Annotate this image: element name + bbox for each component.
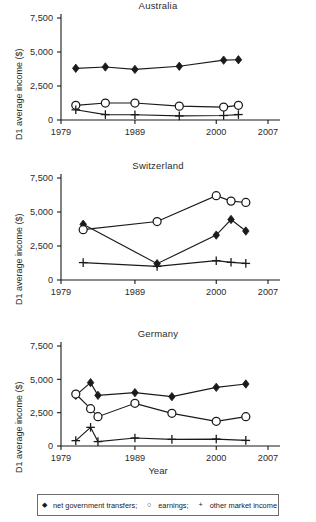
x-tick-label: 2000 (206, 287, 226, 297)
x-tick-label: 2007 (258, 127, 278, 137)
circle-marker-icon (220, 103, 228, 111)
plus-marker-icon: + (196, 500, 206, 510)
plus-marker-icon (175, 112, 184, 121)
diamond-marker-icon (132, 388, 139, 396)
legend-label-earnings: earnings; (158, 501, 188, 510)
y-tick-label: 2,500 (30, 241, 53, 251)
circle-marker-icon (175, 102, 183, 110)
circle-marker-icon (212, 417, 220, 425)
x-tick-label: 1989 (125, 287, 145, 297)
circle-marker-icon: ○ (144, 500, 154, 510)
y-tick-label: 7,500 (30, 341, 53, 351)
series-line-net-government-transfers (76, 383, 246, 397)
y-tick-label: 0 (48, 275, 53, 285)
y-tick-label: 2,500 (30, 408, 53, 418)
plus-marker-icon (168, 435, 177, 444)
legend: ◆ net government transfers; ○ earnings; … (37, 494, 279, 516)
y-tick-label: 0 (48, 441, 53, 451)
diamond-marker-icon (243, 227, 250, 235)
x-tick-label: 1989 (125, 127, 145, 137)
x-tick-label: 2007 (258, 287, 278, 297)
circle-marker-icon (242, 413, 250, 421)
y-tick-label: 0 (48, 115, 53, 125)
diamond-marker-icon (176, 62, 183, 70)
circle-marker-icon (153, 218, 161, 226)
series-line-other-market-income (83, 261, 246, 267)
plus-marker-icon (131, 110, 140, 119)
plot-area-germany: 02,5005,0007,5001979198920002007 (0, 328, 316, 488)
circle-marker-icon (234, 101, 242, 109)
circle-marker-icon (101, 99, 109, 107)
panel-germany: Germany D1 average income ($) 02,5005,00… (0, 328, 316, 488)
panel-australia: Australia D1 average income ($) 02,5005,… (0, 0, 316, 155)
x-tick-label: 1989 (125, 453, 145, 463)
plus-marker-icon (227, 258, 236, 267)
plus-marker-icon (131, 434, 140, 443)
diamond-marker-icon (169, 392, 176, 400)
legend-item-net-government-transfers: ◆ net government transfers; (39, 500, 137, 510)
plus-marker-icon (234, 110, 243, 119)
plus-marker-icon (242, 436, 251, 445)
plot-area-australia: 02,5005,0007,5001979198920002007 (0, 0, 316, 155)
diamond-marker-icon (132, 65, 139, 73)
circle-marker-icon (212, 192, 220, 200)
x-axis-label: Year (0, 465, 316, 476)
plus-marker-icon (242, 259, 251, 268)
x-tick-label: 2000 (206, 453, 226, 463)
diamond-marker-icon (243, 380, 250, 388)
x-tick-label: 2000 (206, 127, 226, 137)
legend-item-other-market-income: + other market income (196, 500, 277, 510)
legend-item-earnings: ○ earnings; (144, 500, 188, 510)
x-tick-label: 2007 (258, 453, 278, 463)
circle-marker-icon (94, 413, 102, 421)
diamond-marker-icon (220, 56, 227, 64)
circle-marker-icon (242, 198, 250, 206)
series-line-other-market-income (76, 110, 239, 116)
diamond-marker-icon (235, 56, 242, 64)
legend-label-other-market-income: other market income (210, 501, 277, 510)
diamond-marker-icon (213, 383, 220, 391)
series-markers-net-government-transfers (73, 378, 250, 400)
series-markers-net-government-transfers (73, 56, 242, 74)
y-tick-label: 7,500 (30, 13, 53, 23)
circle-marker-icon (227, 197, 235, 205)
plot-area-switzerland: 02,5005,0007,5001979198920002007 (0, 160, 316, 325)
plus-marker-icon (101, 110, 110, 119)
diamond-marker-icon: ◆ (39, 500, 49, 510)
y-tick-label: 7,500 (30, 173, 53, 183)
circle-marker-icon (131, 399, 139, 407)
income-decile-figure: Australia D1 average income ($) 02,5005,… (0, 0, 316, 522)
diamond-marker-icon (102, 63, 109, 71)
panel-switzerland: Switzerland D1 average income ($) 02,500… (0, 160, 316, 325)
plus-marker-icon (212, 256, 221, 265)
series-line-earnings (83, 196, 246, 230)
circle-marker-icon (87, 405, 95, 413)
circle-marker-icon (131, 99, 139, 107)
x-tick-label: 1979 (51, 127, 71, 137)
series-line-net-government-transfers (83, 219, 246, 263)
y-tick-label: 5,000 (30, 207, 53, 217)
x-tick-label: 1979 (51, 453, 71, 463)
plus-marker-icon (79, 258, 88, 267)
series-line-earnings (76, 103, 239, 107)
plus-marker-icon (94, 437, 103, 446)
circle-marker-icon (72, 390, 80, 398)
y-tick-label: 5,000 (30, 47, 53, 57)
diamond-marker-icon (73, 64, 80, 72)
y-tick-label: 2,500 (30, 81, 53, 91)
circle-marker-icon (79, 226, 87, 234)
plus-marker-icon (212, 435, 221, 444)
circle-marker-icon (168, 409, 176, 417)
series-line-net-government-transfers (76, 60, 239, 70)
plus-marker-icon (219, 111, 228, 120)
x-tick-label: 1979 (51, 287, 71, 297)
series-markers-other-market-income (71, 423, 250, 446)
y-tick-label: 5,000 (30, 375, 53, 385)
legend-label-net-government-transfers: net government transfers; (53, 501, 137, 510)
